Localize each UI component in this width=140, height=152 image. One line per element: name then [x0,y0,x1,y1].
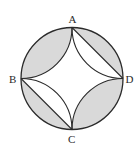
label-b: B [9,73,16,85]
label-d: D [126,73,134,85]
shaded-lens-cd [72,79,123,130]
label-c: C [68,133,75,145]
label-a: A [69,13,77,25]
shaded-lens-ab [21,28,72,79]
outer-circle [21,28,123,130]
geometry-diagram: A B C D [0,0,140,152]
circle-astroid-figure: A B C D [0,0,140,152]
